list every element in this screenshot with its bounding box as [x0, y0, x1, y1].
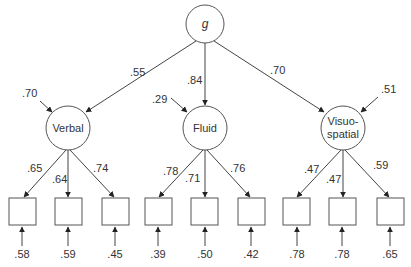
error-visuospatial-3: .65	[382, 248, 397, 260]
loading-verbal-ind3: .74	[93, 162, 108, 174]
loading-g-verbal: .55	[130, 66, 145, 78]
error-visuospatial-2: .78	[334, 248, 349, 260]
g-factor-node: g	[186, 5, 224, 43]
residual-fluid: .29	[152, 93, 167, 105]
factor-label-visuospatial-line2: spatial	[327, 128, 359, 140]
path-visuospatial-ind3	[345, 150, 389, 197]
error-verbal-3: .45	[107, 248, 122, 260]
indicator-box-fluid-2	[191, 198, 218, 225]
loading-visuospatial-ind3: .59	[373, 159, 388, 171]
indicator-box-fluid-1	[145, 198, 172, 225]
loading-verbal-ind1: .65	[27, 162, 42, 174]
error-fluid-3: .42	[243, 248, 258, 260]
residual-verbal: .70	[22, 87, 37, 99]
loading-fluid-ind2: .71	[185, 172, 200, 184]
error-visuospatial-1: .78	[289, 248, 304, 260]
sem-diagram: g .55 .84 .70 .70 .29 .51 Verbal Fluid V…	[0, 0, 411, 267]
indicator-box-fluid-3	[238, 198, 265, 225]
factor-node-fluid: Fluid	[183, 106, 227, 150]
indicator-box-verbal-2	[55, 198, 82, 225]
residual-arrow-verbal	[40, 101, 52, 112]
indicator-box-verbal-3	[102, 198, 129, 225]
loading-fluid-ind3: .76	[230, 162, 245, 174]
error-fluid-2: .50	[197, 248, 212, 260]
factor-node-visuospatial: Visuo- spatial	[321, 106, 365, 150]
error-fluid-1: .39	[150, 248, 165, 260]
loading-fluid-ind1: .78	[163, 165, 178, 177]
indicator-box-verbal-1	[9, 198, 36, 225]
factor-label-fluid: Fluid	[193, 122, 217, 134]
indicator-box-visuospatial-1	[283, 198, 310, 225]
factor-label-visuospatial-line1: Visuo-	[328, 115, 359, 127]
loading-visuospatial-ind1: .47	[304, 163, 319, 175]
indicator-box-visuospatial-2	[329, 198, 356, 225]
residual-visuospatial: .51	[381, 83, 396, 95]
factor-node-verbal: Verbal	[46, 106, 90, 150]
loading-visuospatial-ind2: .47	[326, 173, 341, 185]
factor-label-verbal: Verbal	[52, 122, 83, 134]
g-factor-label: g	[202, 17, 209, 31]
loading-g-visuospatial: .70	[270, 64, 285, 76]
error-verbal-2: .59	[60, 248, 75, 260]
residual-arrow-fluid	[171, 98, 187, 112]
indicator-box-visuospatial-3	[377, 198, 404, 225]
loading-g-fluid: .84	[187, 74, 202, 86]
path-g-visuospatial	[214, 41, 324, 112]
error-verbal-1: .58	[14, 248, 29, 260]
loading-verbal-ind2: .64	[52, 173, 67, 185]
residual-arrow-visuospatial	[361, 97, 378, 112]
